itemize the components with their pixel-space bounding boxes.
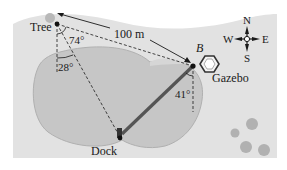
dock-label: Dock [91, 144, 117, 158]
point-b-label: B [196, 41, 204, 55]
compass-e-label: E [262, 33, 269, 45]
dock-point [118, 136, 123, 141]
tree-point [55, 22, 60, 27]
compass-n-label: N [243, 14, 251, 26]
angle-74-label: 74° [69, 34, 84, 46]
distance-label: 100 m [114, 27, 145, 41]
angle-28-label: 28° [58, 61, 73, 73]
gazebo-label: Gazebo [212, 71, 249, 85]
compass-s-label: S [244, 52, 250, 64]
b-point [190, 63, 195, 68]
lake-map-diagram: Tree 100 m 74° 28° B Gazebo 41° Dock N S… [0, 0, 287, 170]
compass-w-label: W [223, 33, 234, 45]
angle-41-label: 41° [175, 88, 190, 100]
tree-label: Tree [30, 20, 52, 34]
